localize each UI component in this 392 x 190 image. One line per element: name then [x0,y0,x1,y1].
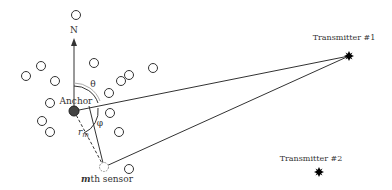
sensor-node [51,77,60,86]
sensor-node [115,128,124,137]
anchor-label: Anchor [59,96,94,106]
sensor-to-transmitter1 [104,56,349,167]
sensor-node [106,109,115,118]
sensor-bearing-line [89,106,104,167]
sensor-node [125,71,134,80]
sensor-node [90,59,99,68]
sensor-node [125,165,134,174]
sensor-node [72,11,81,20]
sensor-node [38,117,47,126]
sensor-node [105,89,114,98]
mth-sensor-label: mth sensor [81,174,134,184]
transmitter2-star-icon [314,167,324,177]
north-arrow-icon [71,38,77,46]
diagram-canvas: N Anchor θ φ rm mth sensor Transmitter #… [0,0,392,190]
transmitter2-label: Transmitter #2 [280,154,343,163]
theta-label: θ [90,79,95,89]
transmitter1-star-icon [344,51,354,61]
sensor-node [46,99,55,108]
sensor-node [117,77,126,86]
transmitter1-label: Transmitter #1 [313,33,376,42]
anchor-node [69,106,79,116]
sensor-node [46,128,55,137]
anchor-to-transmitter1 [74,56,349,111]
sensor-node [22,72,31,81]
phi-label: φ [97,118,103,128]
north-label: N [70,25,78,35]
sensor-nodes [22,11,158,174]
diagram: N Anchor θ φ rm mth sensor Transmitter #… [0,0,392,190]
sensor-node [149,64,158,73]
mth-sensor-node [100,163,109,172]
sensor-node [37,62,46,71]
